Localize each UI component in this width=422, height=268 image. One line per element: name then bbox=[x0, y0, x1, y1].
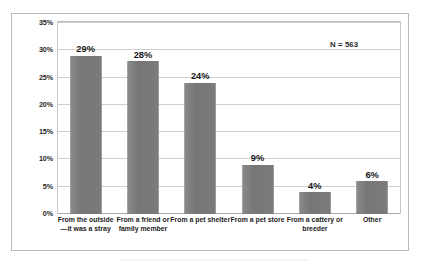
bar-from-a-cattery-or-breeder[interactable] bbox=[299, 192, 330, 214]
x-axis-label-from-a-cattery-or-breeder: From a cattery or breeder bbox=[286, 216, 343, 233]
bar-value-label: 24% bbox=[191, 71, 210, 81]
bar-value-label: 29% bbox=[76, 44, 95, 54]
x-axis-label-from-a-pet-store: From a pet store bbox=[229, 216, 286, 225]
bar-value-label: 9% bbox=[251, 153, 264, 163]
bar-from-a-pet-shelter[interactable] bbox=[185, 83, 216, 214]
y-tick-label: 15% bbox=[39, 127, 53, 136]
bar-value-label: 4% bbox=[308, 181, 321, 191]
bar-slot: 4% bbox=[286, 21, 343, 214]
y-tick-label: 5% bbox=[43, 181, 53, 190]
x-axis: From the outside—it was a stray From a f… bbox=[57, 216, 401, 250]
bar-slot: 6% bbox=[344, 21, 401, 214]
bar-value-label: 6% bbox=[365, 170, 378, 180]
bar-from-the-outside[interactable] bbox=[70, 56, 101, 214]
chart-frame: 35% 30% 25% 20% 15% 10% 5% 0% 29% 28% 24… bbox=[11, 13, 409, 251]
y-tick-label: 10% bbox=[39, 154, 53, 163]
scan-artifact bbox=[120, 259, 310, 261]
y-tick-label: 30% bbox=[39, 45, 53, 54]
y-axis: 35% 30% 25% 20% 15% 10% 5% 0% bbox=[12, 14, 57, 252]
bars-layer: 29% 28% 24% 9% 4% 6% bbox=[57, 21, 401, 214]
x-axis-label-other: Other bbox=[344, 216, 401, 225]
bar-from-a-pet-store[interactable] bbox=[242, 165, 273, 214]
y-tick-label: 35% bbox=[39, 18, 53, 27]
bar-slot: 9% bbox=[229, 21, 286, 214]
bar-other[interactable] bbox=[357, 181, 388, 214]
sample-size-annotation: N = 563 bbox=[330, 40, 358, 49]
y-tick-label: 20% bbox=[39, 99, 53, 108]
x-axis-label-from-a-friend-or-family-member: From a friend or family member bbox=[114, 216, 171, 233]
x-axis-label-from-a-pet-shelter: From a pet shelter bbox=[170, 216, 231, 225]
x-axis-label-from-the-outside: From the outside—it was a stray bbox=[57, 216, 114, 233]
bar-slot: 28% bbox=[114, 21, 171, 214]
y-tick-label: 25% bbox=[39, 72, 53, 81]
bar-slot: 29% bbox=[57, 21, 114, 214]
bar-value-label: 28% bbox=[134, 50, 153, 60]
bar-from-a-friend-or-family-member[interactable] bbox=[127, 61, 158, 214]
bar-slot: 24% bbox=[172, 21, 229, 214]
y-tick-label: 0% bbox=[43, 209, 53, 218]
